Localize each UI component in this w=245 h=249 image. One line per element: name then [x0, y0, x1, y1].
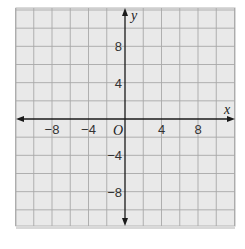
y-axis-label: y — [129, 8, 138, 23]
origin-label: O — [113, 123, 123, 138]
y-tick-label: 8 — [115, 39, 122, 54]
y-tick-label: 4 — [115, 76, 122, 91]
coordinate-plane: x y O −8−448 84−4−8 — [0, 0, 245, 249]
y-tick-label: −8 — [107, 185, 122, 200]
x-axis-label: x — [223, 102, 231, 117]
y-tick-label: −4 — [107, 148, 122, 163]
x-tick-label: −4 — [81, 122, 96, 137]
x-tick-label: −8 — [45, 122, 60, 137]
x-tick-label: 8 — [194, 122, 201, 137]
x-tick-label: 4 — [158, 122, 165, 137]
